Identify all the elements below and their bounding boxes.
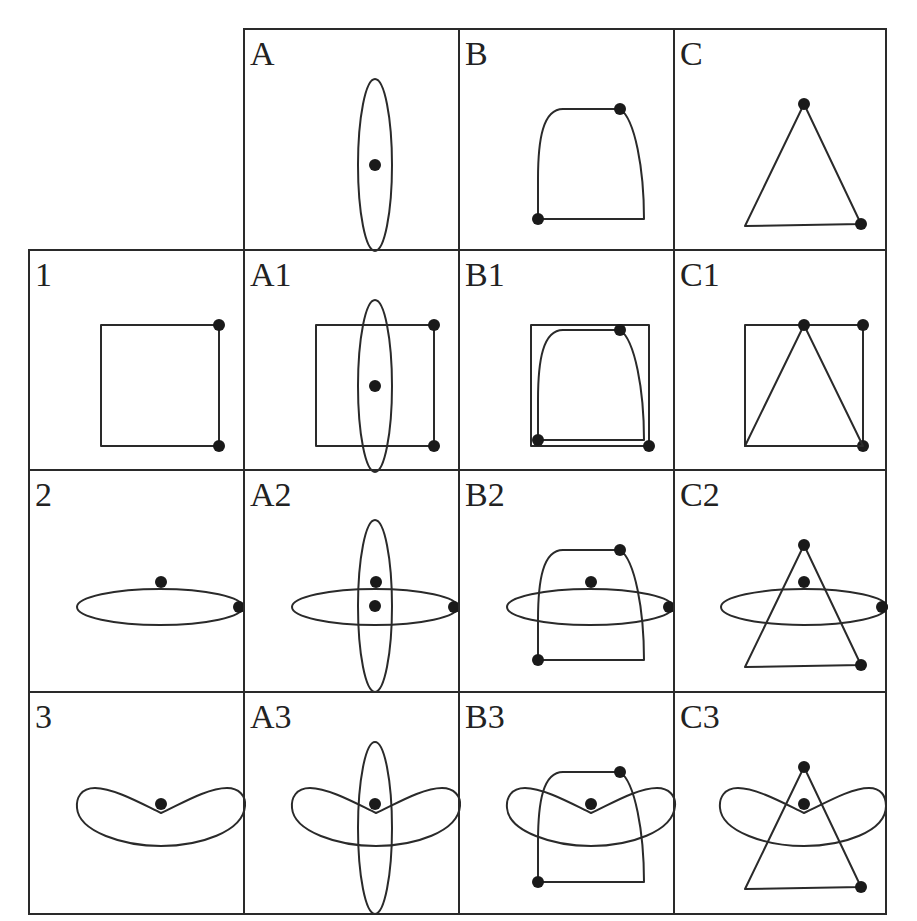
shape-rounded-top-quad [532,324,644,446]
dot-marker [855,659,867,671]
shape-vertical-ellipse [358,520,392,692]
cell-C: C [674,29,886,250]
dot-marker [876,601,888,613]
cell-B1: B1 [459,250,674,470]
dot-marker [643,440,655,452]
shape-boomerang [292,788,460,846]
shape-boomerang [720,788,886,846]
shape-rounded-top-quad [532,766,644,888]
cell-2: 2 [29,470,245,692]
cell-B: B [459,29,674,250]
dot-marker [370,576,382,588]
dot-marker [369,159,381,171]
cell-label-B2: B2 [465,476,505,513]
shape-boomerang [77,788,245,846]
shape-square [531,325,655,452]
shape-horizontal-ellipse [77,576,245,625]
shape-triangle [745,539,867,671]
shape-square [101,319,225,452]
combination-grid-diagram: A B C 1 A1 [0,0,917,921]
shape-vertical-ellipse [358,742,392,914]
dot-marker [155,576,167,588]
cell-label-3: 3 [35,698,52,735]
cell-3: 3 [29,692,245,914]
dot-marker [798,576,810,588]
dot-marker [369,600,381,612]
cell-C1: C1 [674,250,886,470]
dot-marker [798,539,810,551]
dot-marker [798,98,810,110]
cell-border [29,470,244,692]
cell-label-C3: C3 [680,698,720,735]
cell-label-B3: B3 [465,698,505,735]
shape-square [745,319,869,452]
shape-horizontal-ellipse [721,576,888,625]
dot-marker [428,319,440,331]
cell-border [459,29,674,250]
dot-marker [798,798,810,810]
dot-marker [532,876,544,888]
cell-label-1: 1 [35,256,52,293]
dot-marker [532,213,544,225]
dot-marker [857,319,869,331]
cell-A1: A1 [244,250,459,472]
dot-marker [213,319,225,331]
cell-label-B: B [465,35,488,72]
shape-triangle [745,319,863,446]
cell-A2: A2 [244,470,460,692]
dot-marker [855,218,867,230]
shape-rounded-top-quad [532,103,644,225]
cell-label-C2: C2 [680,476,720,513]
cell-B3: B3 [459,692,675,914]
dot-marker [614,103,626,115]
cell-C3: C3 [674,692,886,914]
dot-marker [155,798,167,810]
dot-marker [585,576,597,588]
cell-border [29,250,244,470]
dot-marker [614,324,626,336]
shape-boomerang [507,788,675,846]
cell-border [29,692,244,914]
cell-label-A: A [250,35,275,72]
cell-label-B1: B1 [465,256,505,293]
cell-label-C: C [680,35,703,72]
cell-border [674,29,886,250]
cell-A: A [244,29,459,251]
dot-marker [614,544,626,556]
dot-marker [428,440,440,452]
cell-C2: C2 [674,470,888,692]
dot-marker [369,380,381,392]
dot-marker [798,319,810,331]
dot-marker [213,440,225,452]
dot-marker [369,798,381,810]
shape-triangle [745,761,867,893]
shape-rounded-top-quad [532,544,644,666]
shape-horizontal-ellipse [507,576,675,625]
cell-A3: A3 [244,692,460,914]
cell-label-A3: A3 [250,698,292,735]
dot-marker [798,761,810,773]
shape-triangle [745,98,867,230]
dot-marker [532,434,544,446]
dot-marker [855,881,867,893]
cell-label-C1: C1 [680,256,720,293]
cell-label-2: 2 [35,476,52,513]
cell-label-A1: A1 [250,256,292,293]
cell-label-A2: A2 [250,476,292,513]
dot-marker [614,766,626,778]
dot-marker [532,654,544,666]
cell-1: 1 [29,250,244,470]
cell-border [244,29,459,250]
dot-marker [585,798,597,810]
shape-vertical-ellipse [358,79,392,251]
cell-B2: B2 [459,470,675,692]
